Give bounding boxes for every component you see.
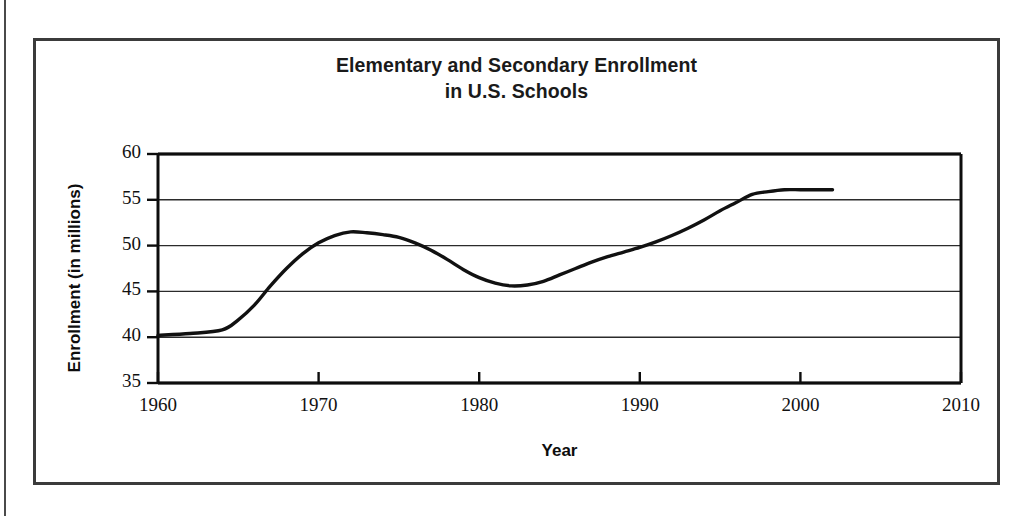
x-tick-label-2000: 2000 <box>745 394 855 416</box>
y-tick-label-40: 40 <box>81 324 141 346</box>
y-tick-label-45: 45 <box>81 278 141 300</box>
axes-group <box>158 153 961 384</box>
series-line-0 <box>158 190 833 336</box>
y-tick-label-50: 50 <box>81 233 141 255</box>
gridlines-group <box>158 154 961 383</box>
x-tick-label-2010: 2010 <box>906 394 1016 416</box>
y-tick-label-35: 35 <box>81 370 141 392</box>
x-tick-label-1980: 1980 <box>424 394 534 416</box>
x-tick-label-1960: 1960 <box>103 394 213 416</box>
axis-ticks-group <box>147 154 961 383</box>
x-tick-label-1990: 1990 <box>585 394 695 416</box>
y-tick-label-60: 60 <box>81 141 141 163</box>
figure-page: Elementary and Secondary Enrollment in U… <box>0 0 1028 516</box>
x-tick-label-1970: 1970 <box>264 394 374 416</box>
y-tick-label-55: 55 <box>81 187 141 209</box>
chart-plot-area <box>0 0 1028 516</box>
data-series-group <box>158 190 833 336</box>
